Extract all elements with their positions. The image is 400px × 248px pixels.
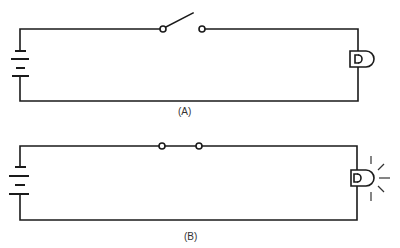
caption-b: (B) <box>184 231 197 242</box>
caption-a: (A) <box>178 106 191 117</box>
wire-b-bottom <box>20 186 357 220</box>
lamp-off-icon <box>350 51 374 67</box>
wire-a-top-left <box>20 29 160 51</box>
circuit-diagrams <box>0 0 400 248</box>
battery-icon <box>11 51 29 76</box>
lamp-lit-icon <box>351 170 374 186</box>
wire-b-top <box>20 146 357 170</box>
circuit-a <box>11 13 374 101</box>
wire-a-top-right <box>205 29 358 51</box>
circuit-b <box>9 143 390 220</box>
wire-a-bottom <box>20 67 358 101</box>
battery-icon <box>9 167 29 194</box>
switch-open-icon[interactable] <box>160 13 205 32</box>
